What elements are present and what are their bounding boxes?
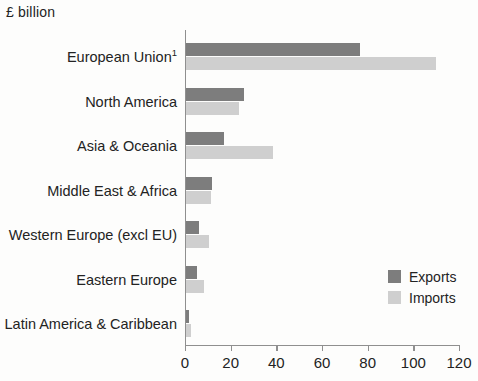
x-tick-label: 100 xyxy=(401,354,426,371)
bar-imports xyxy=(186,235,209,248)
bar-exports xyxy=(186,43,360,56)
category-label-text: Western Europe (excl EU) xyxy=(9,227,177,243)
legend-entry: Exports xyxy=(388,266,456,287)
chart-legend: ExportsImports xyxy=(388,266,456,308)
bar-exports xyxy=(186,177,212,190)
x-tick-label: 80 xyxy=(359,354,376,371)
category-label-text: Latin America & Caribbean xyxy=(5,316,178,332)
bar-imports xyxy=(186,146,273,159)
category-label: North America xyxy=(85,95,177,110)
category-row: Asia & Oceania xyxy=(185,132,459,160)
category-label: Asia & Oceania xyxy=(77,139,177,154)
x-tick-mark xyxy=(276,345,277,351)
legend-entry: Imports xyxy=(388,287,456,308)
category-label-text: Middle East & Africa xyxy=(47,183,177,199)
bar-chart-figure: £ billion 020406080100120 European Union… xyxy=(0,0,478,381)
category-row: Latin America & Caribbean xyxy=(185,310,459,338)
legend-swatch-imports xyxy=(388,291,401,304)
x-tick-mark xyxy=(368,345,369,351)
x-tick-mark xyxy=(185,345,186,351)
bar-exports xyxy=(186,88,244,101)
bar-exports xyxy=(186,310,189,323)
x-tick-label: 40 xyxy=(268,354,285,371)
category-label: European Union1 xyxy=(67,50,177,65)
category-label: Middle East & Africa xyxy=(47,184,177,199)
bar-imports xyxy=(186,191,211,204)
category-label: Western Europe (excl EU) xyxy=(9,228,177,243)
bar-exports xyxy=(186,221,199,234)
x-tick-mark xyxy=(231,345,232,351)
legend-label: Imports xyxy=(409,290,456,306)
bar-imports xyxy=(186,57,436,70)
category-row: Western Europe (excl EU) xyxy=(185,221,459,249)
category-label-text: Eastern Europe xyxy=(76,272,177,288)
category-label-footnote: 1 xyxy=(172,47,177,58)
category-label: Latin America & Caribbean xyxy=(5,317,178,332)
category-row: European Union1 xyxy=(185,43,459,71)
bar-exports xyxy=(186,266,197,279)
category-label-text: Asia & Oceania xyxy=(77,138,177,154)
category-label: Eastern Europe xyxy=(76,273,177,288)
x-tick-mark xyxy=(459,345,460,351)
x-tick-mark xyxy=(413,345,414,351)
bar-imports xyxy=(186,324,191,337)
category-label-text: North America xyxy=(85,94,177,110)
legend-swatch-exports xyxy=(388,270,401,283)
x-tick-label: 0 xyxy=(181,354,189,371)
bar-imports xyxy=(186,280,204,293)
x-tick-label: 60 xyxy=(314,354,331,371)
category-label-text: European Union xyxy=(67,49,172,65)
category-row: Middle East & Africa xyxy=(185,177,459,205)
bar-exports xyxy=(186,132,224,145)
x-tick-label: 120 xyxy=(446,354,471,371)
chart-unit-title: £ billion xyxy=(6,4,55,20)
x-tick-mark xyxy=(322,345,323,351)
legend-label: Exports xyxy=(409,269,456,285)
category-row: North America xyxy=(185,88,459,116)
x-tick-label: 20 xyxy=(222,354,239,371)
bar-imports xyxy=(186,102,239,115)
